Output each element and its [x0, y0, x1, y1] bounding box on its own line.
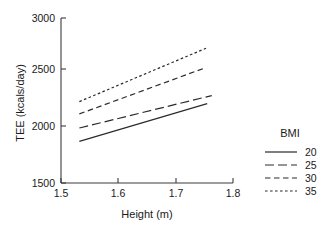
y-tick-label-1500: 1500 — [32, 177, 56, 189]
data-series-group — [79, 48, 211, 141]
x-axis-ticks — [61, 178, 233, 183]
data-line-bmi-25 — [79, 96, 211, 128]
data-line-bmi-20 — [79, 104, 207, 142]
legend-label-bmi-35: 35 — [305, 185, 317, 197]
x-tick-label-1-7: 1.7 — [169, 187, 184, 199]
legend: BMI 20253035 — [265, 127, 317, 197]
y-axis-tick-labels: 3000 2500 2000 1500 — [32, 12, 56, 189]
y-axis-ticks — [61, 18, 66, 183]
data-line-bmi-30 — [79, 68, 205, 114]
legend-label-bmi-20: 20 — [305, 146, 317, 158]
x-tick-label-1-5: 1.5 — [54, 187, 69, 199]
y-tick-label-2500: 2500 — [32, 63, 56, 75]
legend-label-bmi-30: 30 — [305, 172, 317, 184]
x-axis-title: Height (m) — [121, 208, 172, 220]
legend-title: BMI — [280, 127, 300, 139]
x-tick-label-1-8: 1.8 — [226, 187, 241, 199]
y-tick-label-3000: 3000 — [32, 12, 56, 24]
x-tick-label-1-6: 1.6 — [111, 187, 126, 199]
legend-entries: 20253035 — [265, 146, 317, 197]
legend-label-bmi-25: 25 — [305, 159, 317, 171]
y-axis-title: TEE (kcals/day) — [14, 64, 26, 142]
chart-figure: TEE (kcals/day) Height (m) 3000 2500 200… — [0, 0, 330, 235]
y-tick-label-2000: 2000 — [32, 120, 56, 132]
data-line-bmi-35 — [79, 48, 206, 101]
x-axis-tick-labels: 1.5 1.6 1.7 1.8 — [54, 187, 241, 199]
chart-plot-area: TEE (kcals/day) Height (m) 3000 2500 200… — [0, 0, 330, 235]
